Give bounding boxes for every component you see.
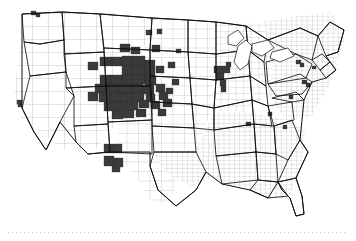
figure-container: [0, 0, 356, 241]
us-county-choropleth-map: [0, 0, 356, 241]
footer-dotted-rule: [8, 232, 348, 233]
